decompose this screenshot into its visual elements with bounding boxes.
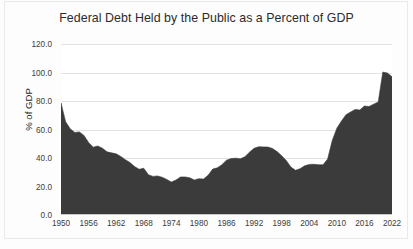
x-axis-tick-label: 1998 (273, 219, 291, 228)
y-axis-tick-label: 60.0 (36, 125, 52, 134)
area-series (61, 44, 392, 215)
x-axis-tick-label: 1986 (217, 219, 235, 228)
chart-figure: Federal Debt Held by the Public as a Per… (0, 0, 413, 249)
x-axis-tick-label: 1962 (107, 219, 125, 228)
x-axis-tick-labels: 1950195619621968197419801986199219982004… (61, 219, 392, 233)
y-axis-tick-label: 40.0 (36, 154, 52, 163)
source-note (6, 240, 246, 248)
x-axis-tick-label: 2010 (328, 219, 346, 228)
x-axis-tick-label: 1950 (52, 219, 70, 228)
x-axis-tick-label: 1968 (135, 219, 153, 228)
chart-title: Federal Debt Held by the Public as a Per… (0, 11, 413, 25)
y-axis-tick-label: 20.0 (36, 182, 52, 191)
x-axis-line (61, 214, 392, 215)
x-axis-tick-label: 1974 (162, 219, 180, 228)
x-axis-tick-label: 1956 (79, 219, 97, 228)
plot-area (61, 44, 392, 215)
y-axis-tick-label: 100.0 (32, 68, 53, 77)
x-axis-tick-label: 2022 (383, 219, 401, 228)
y-axis-tick-label: 80.0 (36, 97, 52, 106)
x-axis-tick-label: 2016 (355, 219, 373, 228)
x-axis-tick-label: 1992 (245, 219, 263, 228)
y-axis-tick-label: 0.0 (41, 211, 52, 220)
area-series-path (61, 72, 392, 215)
x-axis-tick-label: 2004 (300, 219, 318, 228)
x-axis-tick-label: 1980 (190, 219, 208, 228)
y-axis-tick-labels: 0.020.040.060.080.0100.0120.0 (0, 44, 59, 215)
y-axis-tick-label: 120.0 (32, 40, 53, 49)
